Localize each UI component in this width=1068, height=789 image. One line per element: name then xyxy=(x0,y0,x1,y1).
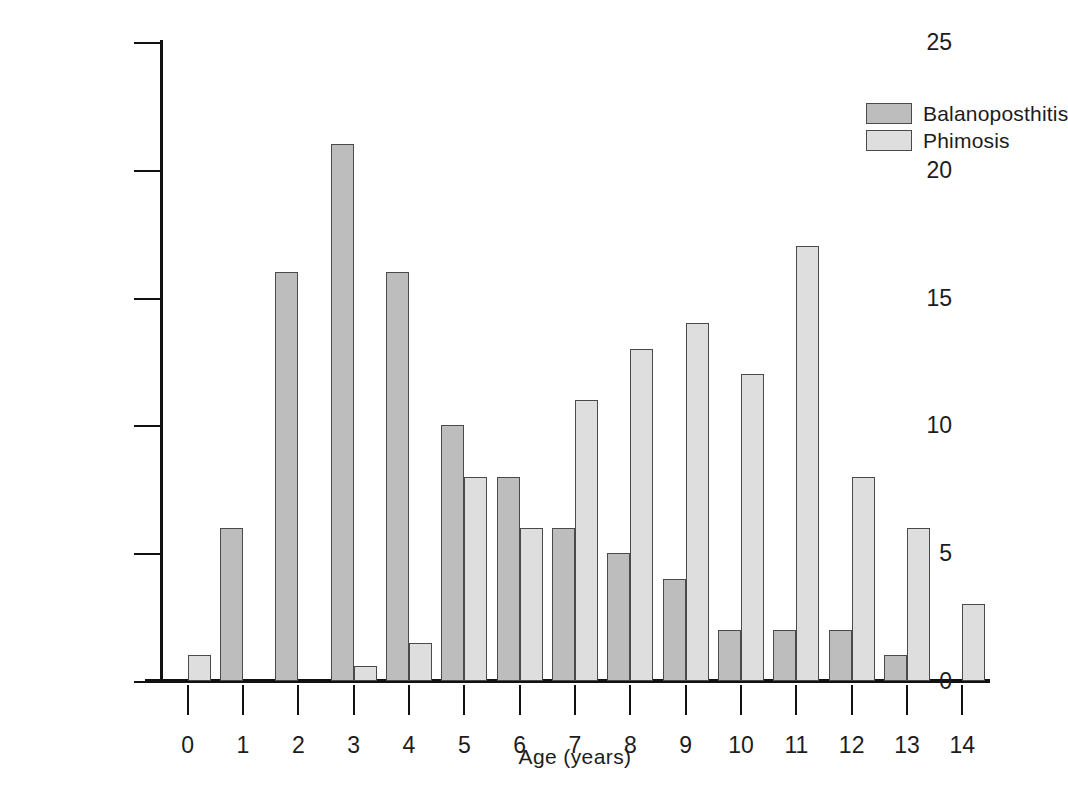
x-axis-tick xyxy=(187,685,189,715)
y-axis-tick xyxy=(134,553,160,555)
bar xyxy=(884,655,907,681)
x-axis-tick xyxy=(961,685,963,715)
bar xyxy=(852,477,875,681)
x-axis-tick xyxy=(297,685,299,715)
legend-swatch-balanoposthitis xyxy=(866,103,912,124)
bar xyxy=(354,666,377,681)
bar xyxy=(441,425,464,681)
x-axis-tick xyxy=(795,685,797,715)
legend-label: Phimosis xyxy=(923,129,1010,153)
bar xyxy=(607,553,630,681)
bar xyxy=(575,400,598,681)
bar xyxy=(773,630,796,681)
legend-label: Balanoposthitis xyxy=(923,102,1068,126)
x-axis-tick xyxy=(408,685,410,715)
y-axis-tick-label: 10 xyxy=(926,412,952,439)
bar xyxy=(686,323,709,681)
bar xyxy=(464,477,487,681)
bar xyxy=(907,528,930,681)
y-axis-tick xyxy=(134,170,160,172)
bar xyxy=(630,349,653,681)
bar xyxy=(741,374,764,681)
x-axis-tick xyxy=(740,685,742,715)
bar xyxy=(409,643,432,681)
bar xyxy=(552,528,575,681)
y-axis-tick-label: 25 xyxy=(926,29,952,56)
bar xyxy=(829,630,852,681)
x-axis-tick xyxy=(242,685,244,715)
x-axis-tick xyxy=(463,685,465,715)
bar xyxy=(220,528,243,681)
x-axis-label: Age (years) xyxy=(160,745,990,769)
legend-swatch-phimosis xyxy=(866,130,912,151)
x-axis-tick xyxy=(851,685,853,715)
chart-legend: BalanoposthitisPhimosis xyxy=(866,100,1068,154)
y-axis-tick-label: 5 xyxy=(939,540,952,567)
bar xyxy=(520,528,543,681)
legend-item: Phimosis xyxy=(866,127,1068,154)
x-axis-tick xyxy=(906,685,908,715)
y-axis-tick-label: 20 xyxy=(926,156,952,183)
bar xyxy=(275,272,298,681)
x-axis-tick xyxy=(519,685,521,715)
bar xyxy=(962,604,985,681)
bar xyxy=(796,246,819,681)
bar xyxy=(386,272,409,681)
x-axis-tick xyxy=(574,685,576,715)
y-axis-label: % of patients xyxy=(0,0,40,789)
x-axis-tick xyxy=(685,685,687,715)
x-axis-tick xyxy=(353,685,355,715)
y-axis-tick xyxy=(134,681,160,683)
legend-item: Balanoposthitis xyxy=(866,100,1068,127)
bar xyxy=(497,477,520,681)
bar xyxy=(663,579,686,681)
bar xyxy=(331,144,354,681)
x-axis-tick xyxy=(629,685,631,715)
y-axis-tick xyxy=(134,298,160,300)
y-axis-tick xyxy=(134,425,160,427)
bar xyxy=(188,655,211,681)
bar xyxy=(718,630,741,681)
y-axis-tick-label: 15 xyxy=(926,284,952,311)
y-axis-tick xyxy=(134,42,160,44)
y-axis-tick-label: 0 xyxy=(939,668,952,695)
